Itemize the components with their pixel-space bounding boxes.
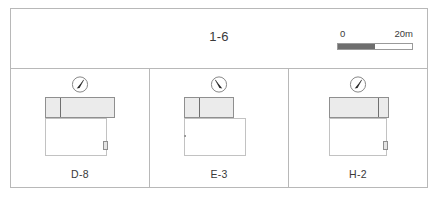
plan-corner-marker [383, 141, 388, 150]
scale-bar-min-label: 0 [340, 28, 345, 39]
plan-band-divider [60, 98, 61, 117]
building-plan-e-3 [180, 97, 258, 159]
panel-label-h-2: H-2 [289, 168, 427, 180]
plan-tick-marker [184, 135, 186, 137]
plan-band-divider [378, 98, 379, 117]
figure-header-band: 1-6 0 20m [11, 9, 427, 69]
plan-upper-band [329, 97, 389, 118]
plan-corner-marker [103, 141, 108, 150]
scale-bar: 0 20m [337, 28, 413, 50]
panel-h-2: H-2 [289, 69, 427, 187]
panel-d-8: D-8 [11, 69, 150, 187]
scale-bar-max-label: 20m [395, 28, 413, 39]
plan-lower-block [45, 118, 107, 156]
plan-upper-band [45, 97, 115, 118]
plan-upper-band [184, 97, 234, 118]
panel-label-d-8: D-8 [11, 168, 149, 180]
building-plan-h-2 [319, 97, 397, 159]
north-arrow-icon [72, 76, 89, 93]
panel-label-e-3: E-3 [150, 168, 288, 180]
north-arrow-icon [350, 76, 367, 93]
plan-lower-block [184, 118, 246, 156]
panel-row: D-8 E-3 [11, 69, 427, 187]
plan-band-divider [199, 98, 200, 117]
scale-bar-labels: 0 20m [337, 28, 413, 41]
figure-frame: 1-6 0 20m [10, 8, 428, 188]
scale-bar-graphic [337, 43, 413, 50]
plan-lower-block [329, 118, 387, 156]
scale-bar-segment-light [375, 44, 412, 49]
scale-bar-segment-dark [338, 44, 375, 49]
north-arrow-icon [211, 76, 228, 93]
panel-e-3: E-3 [150, 69, 289, 187]
building-plan-d-8 [41, 97, 119, 159]
